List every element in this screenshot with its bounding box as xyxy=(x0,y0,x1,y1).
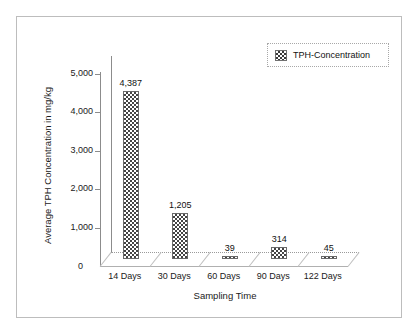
y-axis-tick xyxy=(95,189,100,190)
y-axis-tick-label: 1,000 xyxy=(48,222,93,232)
floor-front-edge xyxy=(100,266,348,267)
legend-swatch-icon xyxy=(275,50,287,61)
bar xyxy=(271,247,287,259)
y-axis-tick-label: 5,000 xyxy=(48,68,93,78)
y-axis-tick xyxy=(95,228,100,229)
x-axis-category-label: 14 Days xyxy=(97,271,153,281)
x-axis-category-label: 30 Days xyxy=(146,271,202,281)
y-axis-tick xyxy=(95,112,100,113)
y-axis-tick-label: 4,000 xyxy=(48,106,93,116)
bar-value-label: 45 xyxy=(306,243,352,253)
bar-value-label: 4,387 xyxy=(108,78,154,88)
bar-value-label: 314 xyxy=(256,234,302,244)
y-axis-zero-label: 0 xyxy=(78,261,83,271)
y-axis-tick-label: 2,000 xyxy=(48,183,93,193)
y-axis-title: Average TPH Concentration in mg/kg xyxy=(42,71,53,261)
bar-value-label: 1,205 xyxy=(157,200,203,210)
chart-legend: TPH-Concentration xyxy=(267,43,389,67)
x-axis-category-label: 90 Days xyxy=(245,271,301,281)
y-axis-tick xyxy=(95,151,100,152)
bar xyxy=(222,256,238,259)
x-axis-title: Sampling Time xyxy=(120,290,330,301)
legend-label: TPH-Concentration xyxy=(293,50,370,60)
y-axis-line xyxy=(100,72,101,267)
y-axis-tick-label: 3,000 xyxy=(48,145,93,155)
chart-figure: 1,0002,0003,0004,0005,000 Average TPH Co… xyxy=(0,0,418,336)
bar xyxy=(321,256,337,259)
bar-value-label: 39 xyxy=(207,243,253,253)
y-axis-tick xyxy=(95,74,100,75)
bar xyxy=(172,213,188,259)
bar xyxy=(123,91,139,259)
x-axis-category-label: 122 Days xyxy=(295,271,351,281)
x-axis-category-label: 60 Days xyxy=(196,271,252,281)
